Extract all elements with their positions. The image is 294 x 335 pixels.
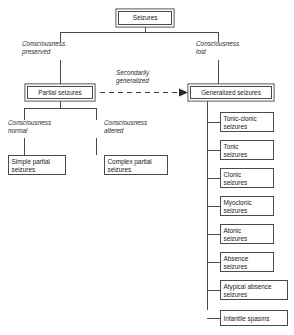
box-complex-partial-seizures-line1: Complex partial <box>108 158 166 166</box>
box-tonic-seizures-line1: Tonic <box>224 143 272 151</box>
box-partial-seizures-label: Partial seizures <box>38 89 81 96</box>
box-tonic-seizures[interactable]: Tonic seizures <box>220 140 274 160</box>
label-consciousness-normal-line2: normal <box>8 127 51 135</box>
box-atonic-seizures-line2: seizures <box>224 235 272 243</box>
box-simple-partial-seizures[interactable]: Simple partial seizures <box>8 155 66 175</box>
box-atypical-absence-seizures-line1: Atypical absence <box>224 283 286 291</box>
label-consciousness-altered-line1: Consciousness <box>104 119 147 127</box>
diagram-canvas: Seizures Consciousness preserved Conscio… <box>0 0 294 335</box>
box-absence-seizures-line2: seizures <box>224 263 272 271</box>
box-clonic-seizures-line2: seizures <box>224 179 272 187</box>
box-partial-seizures[interactable]: Partial seizures <box>27 86 93 99</box>
dashed-arrow-secondarily-generalized <box>100 89 188 97</box>
box-infantile-spasms[interactable]: Infantile spasms <box>220 310 288 326</box>
box-myoclonic-seizures-line1: Myoclonic <box>224 199 272 207</box>
label-consciousness-normal: Consciousness normal <box>8 119 51 135</box>
label-consciousness-lost: Consciousness lost <box>196 40 239 56</box>
label-consciousness-lost-line2: lost <box>196 48 239 56</box>
box-tonic-clonic-seizures[interactable]: Tonic-clonic seizures <box>220 112 274 132</box>
box-complex-partial-seizures[interactable]: Complex partial seizures <box>104 155 168 175</box>
box-atypical-absence-seizures[interactable]: Atypical absence seizures <box>220 280 288 300</box>
box-tonic-clonic-seizures-line2: seizures <box>224 123 272 131</box>
box-atonic-seizures[interactable]: Atonic seizures <box>220 224 274 244</box>
box-generalized-seizures[interactable]: Generalized seizures <box>190 86 272 99</box>
box-simple-partial-seizures-line1: Simple partial <box>12 158 64 166</box>
box-seizures[interactable]: Seizures <box>118 11 172 25</box>
box-atypical-absence-seizures-line2: seizures <box>224 291 286 299</box>
label-consciousness-altered-line2: altered <box>104 127 147 135</box>
label-consciousness-preserved-line2: preserved <box>22 48 65 56</box>
box-seizures-label: Seizures <box>133 14 158 21</box>
box-tonic-clonic-seizures-line1: Tonic-clonic <box>224 115 272 123</box>
box-infantile-spasms-line1: Infantile spasms <box>224 315 286 323</box>
label-secondarily-generalized: Secondarily generalized <box>116 69 149 85</box>
label-consciousness-preserved-line1: Consciousness <box>22 40 65 48</box>
box-myoclonic-seizures[interactable]: Myoclonic seizures <box>220 196 274 216</box>
label-consciousness-altered: Consciousness altered <box>104 119 147 135</box>
dashed-arrow-head <box>179 89 188 97</box>
box-simple-partial-seizures-line2: seizures <box>12 166 64 174</box>
label-consciousness-normal-line1: Consciousness <box>8 119 51 127</box>
box-absence-seizures[interactable]: Absence seizures <box>220 252 274 272</box>
box-absence-seizures-line1: Absence <box>224 255 272 263</box>
box-clonic-seizures-line1: Clonic <box>224 171 272 179</box>
box-clonic-seizures[interactable]: Clonic seizures <box>220 168 274 188</box>
box-generalized-seizures-label: Generalized seizures <box>201 89 261 96</box>
label-secondarily-generalized-line1: Secondarily <box>116 69 149 77</box>
label-consciousness-preserved: Consciousness preserved <box>22 40 65 56</box>
box-atonic-seizures-line1: Atonic <box>224 227 272 235</box>
box-tonic-seizures-line2: seizures <box>224 151 272 159</box>
box-myoclonic-seizures-line2: seizures <box>224 207 272 215</box>
box-complex-partial-seizures-line2: seizures <box>108 166 166 174</box>
label-secondarily-generalized-line2: generalized <box>116 77 149 85</box>
label-consciousness-lost-line1: Consciousness <box>196 40 239 48</box>
